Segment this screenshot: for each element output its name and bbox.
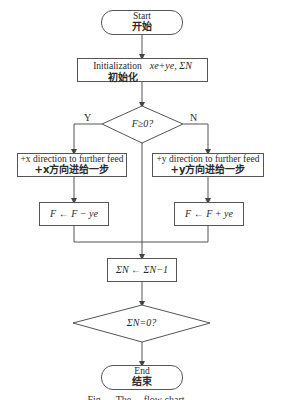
f-minus-ye-process: F ← F − ye xyxy=(39,202,109,226)
f-plus-ye-process: F ← F + ye xyxy=(174,202,244,226)
plus-x-label-zh: +x方向进给一步 xyxy=(35,165,110,176)
figure-caption: Fig. ... The ... flow chart ... xyxy=(0,393,282,400)
plus-x-feed-process: +x direction to further feed +x方向进给一步 xyxy=(17,153,127,177)
no-branch-label: N xyxy=(190,112,197,123)
decision-f-nonnegative: F≥0? xyxy=(102,115,183,133)
init-process: Initialization xe+ye, ΣN 初始化 xyxy=(77,58,208,82)
sum-decrement-process: ΣN ← ΣN−1 xyxy=(107,258,177,282)
end-terminator: End 结束 xyxy=(101,365,183,390)
init-label-math: xe+ye, ΣN xyxy=(150,60,192,71)
start-terminator: Start 开始 xyxy=(101,10,183,35)
decision-sum-zero: ΣN=0? xyxy=(73,314,210,332)
decision2-label: ΣN=0? xyxy=(127,318,156,329)
plus-y-label-zh: +y方向进给一步 xyxy=(171,165,246,176)
end-label-zh: 结束 xyxy=(132,377,152,388)
yes-branch-label: Y xyxy=(84,112,91,123)
f-plus-label: F ← F + ye xyxy=(185,209,233,220)
sum-decrement-label: ΣN ← ΣN−1 xyxy=(116,265,168,276)
init-label-zh: 初始化 xyxy=(108,73,138,84)
plus-y-feed-process: +y direction to further feed +y方向进给一步 xyxy=(152,153,264,177)
init-label-en: Initialization xyxy=(93,61,142,71)
start-label-zh: 开始 xyxy=(132,22,152,33)
decision1-label: F≥0? xyxy=(132,119,154,130)
f-minus-label: F ← F − ye xyxy=(50,209,98,220)
